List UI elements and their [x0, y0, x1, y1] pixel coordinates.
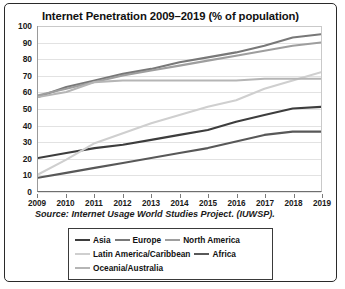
- y-axis-labels: 0102030405060708090100: [5, 26, 35, 192]
- x-axis-tick-mark: [66, 194, 67, 198]
- x-axis-tick-label: 2009: [28, 199, 46, 208]
- legend-label: North America: [183, 235, 240, 245]
- source-caption: Source: Internet Usage World Studies Pro…: [35, 209, 275, 219]
- x-axis-tick-mark: [208, 194, 209, 198]
- series-lines: [38, 26, 321, 191]
- chart-figure: Internet Penetration 2009–2019 (% of pop…: [4, 3, 337, 282]
- legend-label: Latin America/Caribbean: [93, 249, 190, 259]
- plot-area: [37, 26, 322, 192]
- legend-swatch: [165, 239, 180, 242]
- x-axis-tick-mark: [180, 194, 181, 198]
- x-axis-tick-label: 2012: [113, 199, 131, 208]
- x-axis-labels: 2009201020112012201320142015201620172018…: [37, 194, 322, 208]
- legend-swatch: [75, 267, 90, 270]
- y-axis-tick-label: 100: [18, 22, 32, 30]
- series-line-africa: [38, 132, 321, 178]
- y-axis-tick-label: 90: [23, 38, 32, 46]
- y-axis-tick-label: 50: [23, 105, 32, 113]
- legend-row: AsiaEuropeNorth America: [75, 233, 266, 247]
- legend-item-asia: Asia: [75, 235, 111, 245]
- x-axis-tick-label: 2015: [199, 199, 217, 208]
- x-axis-tick-label: 2013: [142, 199, 160, 208]
- legend-item-latin-america-caribbean: Latin America/Caribbean: [75, 249, 190, 259]
- y-axis-tick-label: 30: [23, 138, 32, 146]
- series-line-oceania-australia: [38, 79, 321, 97]
- legend-item-oceania-australia: Oceania/Australia: [75, 263, 163, 273]
- legend-item-europe: Europe: [115, 235, 162, 245]
- legend-swatch: [75, 239, 90, 242]
- legend-row: Latin America/CaribbeanAfrica: [75, 247, 266, 261]
- legend-item-africa: Africa: [194, 249, 236, 259]
- x-axis-tick-mark: [322, 194, 323, 198]
- x-axis-tick-mark: [123, 194, 124, 198]
- y-axis-tick-label: 20: [23, 155, 32, 163]
- x-axis-tick-mark: [37, 194, 38, 198]
- legend-label: Oceania/Australia: [93, 263, 163, 273]
- x-axis-tick-mark: [265, 194, 266, 198]
- x-axis-tick-label: 2014: [170, 199, 188, 208]
- x-axis-tick-mark: [294, 194, 295, 198]
- x-axis-tick-label: 2010: [56, 199, 74, 208]
- y-axis-tick-label: 80: [23, 55, 32, 63]
- x-axis-tick-mark: [151, 194, 152, 198]
- x-axis-tick-label: 2011: [85, 199, 103, 208]
- chart-title: Internet Penetration 2009–2019 (% of pop…: [5, 10, 336, 22]
- legend-row: Oceania/Australia: [75, 261, 266, 275]
- x-axis-tick-label: 2018: [284, 199, 302, 208]
- gridline: [38, 192, 321, 193]
- x-axis-tick-mark: [237, 194, 238, 198]
- legend-item-north-america: North America: [165, 235, 240, 245]
- y-axis-tick-label: 40: [23, 121, 32, 129]
- chart-legend: AsiaEuropeNorth AmericaLatin America/Car…: [68, 228, 273, 280]
- y-axis-tick-label: 70: [23, 72, 32, 80]
- y-axis-tick-label: 0: [27, 188, 32, 196]
- legend-label: Asia: [93, 235, 111, 245]
- legend-swatch: [75, 253, 90, 256]
- legend-swatch: [194, 253, 209, 256]
- y-axis-tick-label: 60: [23, 88, 32, 96]
- y-axis-tick-label: 10: [23, 171, 32, 179]
- legend-swatch: [115, 239, 130, 242]
- plot-wrapper: [37, 26, 322, 192]
- x-axis-tick-mark: [94, 194, 95, 198]
- x-axis-tick-label: 2016: [227, 199, 245, 208]
- x-axis-tick-label: 2017: [256, 199, 274, 208]
- legend-label: Africa: [212, 249, 236, 259]
- legend-label: Europe: [133, 235, 162, 245]
- x-axis-tick-label: 2019: [313, 199, 331, 208]
